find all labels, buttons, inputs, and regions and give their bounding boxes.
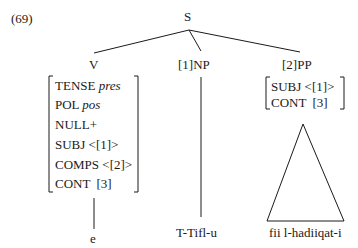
- avm-row-cont: CONT [3]: [55, 177, 112, 190]
- avm-value: [3]: [312, 95, 327, 110]
- avm-attr: NULL+: [55, 117, 97, 132]
- leaf-e: e: [90, 232, 96, 245]
- node-s: S: [184, 10, 191, 23]
- avm-attr: TENSE: [55, 78, 95, 93]
- branch-s-pp: [189, 30, 300, 52]
- branch-s-np: [189, 30, 201, 51]
- example-number: (69): [11, 12, 33, 25]
- branch-s-v: [94, 30, 189, 53]
- avm-attr: CONT: [271, 95, 306, 110]
- avm-value: <[1]>: [89, 137, 119, 152]
- avm-attr: CONT: [55, 176, 90, 191]
- avm-row-tense: TENSE pres: [55, 79, 121, 92]
- avm-value: <[2]>: [102, 157, 132, 172]
- avm-row-cont: CONT [3]: [271, 96, 328, 109]
- avm-attr: SUBJ: [271, 79, 301, 94]
- avm-attr: POL: [55, 97, 79, 112]
- avm-row-null: NULL+: [55, 118, 97, 131]
- v-avm: TENSE pres POL pos NULL+ SUBJ <[1]> COMP…: [49, 76, 139, 193]
- avm-value: pos: [82, 97, 100, 112]
- avm-row-comps: COMPS <[2]>: [55, 158, 132, 171]
- node-v: V: [89, 58, 98, 71]
- pp-avm: SUBJ <[1]> CONT [3]: [266, 77, 345, 110]
- avm-attr: SUBJ: [55, 137, 85, 152]
- avm-row-pol: POL pos: [55, 98, 100, 111]
- avm-row-subj: SUBJ <[1]>: [271, 80, 334, 93]
- pp-triangle: [267, 124, 344, 221]
- node-np: [1]NP: [178, 58, 210, 71]
- avm-value: [3]: [96, 176, 111, 191]
- leaf-np: T-Tifl-u: [176, 226, 217, 239]
- node-pp: [2]PP: [282, 58, 312, 71]
- avm-value: <[1]>: [305, 79, 335, 94]
- avm-attr: COMPS: [55, 157, 99, 172]
- avm-value: pres: [99, 78, 121, 93]
- leaf-pp: fii l-hadiiqat-i: [269, 226, 342, 239]
- avm-row-subj: SUBJ <[1]>: [55, 138, 118, 151]
